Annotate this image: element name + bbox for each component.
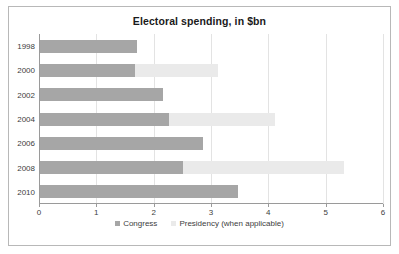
bar-row: 2010 bbox=[40, 185, 238, 198]
x-tick-label: 4 bbox=[266, 208, 270, 217]
y-tick-label: 2002 bbox=[17, 90, 35, 99]
bar-row: 2008 bbox=[40, 161, 344, 174]
bar-segment-congress bbox=[40, 185, 238, 198]
bar-segment-presidency bbox=[135, 64, 218, 77]
x-tick-label: 1 bbox=[94, 208, 98, 217]
bar-segment-congress bbox=[40, 137, 203, 150]
legend-item[interactable]: Congress bbox=[115, 219, 157, 228]
x-tick-mark bbox=[268, 204, 269, 207]
y-tick-label: 2008 bbox=[17, 163, 35, 172]
plot-area: 1998200020022004200620082010 0123456 bbox=[39, 34, 383, 204]
x-tick-mark bbox=[211, 204, 212, 207]
bar-segment-presidency bbox=[183, 161, 344, 174]
bar-segment-presidency bbox=[169, 113, 275, 126]
legend-item[interactable]: Presidency (when applicable) bbox=[171, 219, 284, 228]
y-tick-label: 2000 bbox=[17, 66, 35, 75]
x-tick-label: 2 bbox=[151, 208, 155, 217]
x-tick-mark bbox=[39, 204, 40, 207]
bar-row: 2004 bbox=[40, 113, 275, 126]
bar-segment-congress bbox=[40, 88, 163, 101]
y-tick-label: 1998 bbox=[17, 42, 35, 51]
y-tick-label: 2004 bbox=[17, 115, 35, 124]
bar-segment-congress bbox=[40, 161, 183, 174]
y-axis-line bbox=[39, 34, 40, 204]
bar-row: 1998 bbox=[40, 40, 137, 53]
x-tick-label: 0 bbox=[37, 208, 41, 217]
y-tick-label: 2006 bbox=[17, 139, 35, 148]
legend-swatch-icon bbox=[171, 221, 176, 226]
bar-row: 2002 bbox=[40, 88, 163, 101]
bar-segment-congress bbox=[40, 64, 135, 77]
x-tick-label: 3 bbox=[209, 208, 213, 217]
x-tick-mark bbox=[96, 204, 97, 207]
x-tick-mark bbox=[154, 204, 155, 207]
chart-title: Electoral spending, in $bn bbox=[9, 15, 390, 27]
bar-row: 2006 bbox=[40, 137, 203, 150]
y-tick-label: 2010 bbox=[17, 187, 35, 196]
x-tick-mark bbox=[326, 204, 327, 207]
legend-label: Presidency (when applicable) bbox=[179, 219, 284, 228]
bar-segment-congress bbox=[40, 113, 169, 126]
x-tick-label: 5 bbox=[323, 208, 327, 217]
chart-card: Electoral spending, in $bn 1998200020022… bbox=[8, 6, 391, 246]
chart-legend: CongressPresidency (when applicable) bbox=[9, 219, 390, 228]
bar-row: 2000 bbox=[40, 64, 218, 77]
legend-label: Congress bbox=[123, 219, 157, 228]
x-tick-mark bbox=[383, 204, 384, 207]
x-tick-label: 6 bbox=[381, 208, 385, 217]
gridline bbox=[326, 34, 327, 204]
x-axis-line bbox=[39, 203, 383, 204]
bar-segment-congress bbox=[40, 40, 137, 53]
legend-swatch-icon bbox=[115, 221, 120, 226]
gridline bbox=[383, 34, 384, 204]
